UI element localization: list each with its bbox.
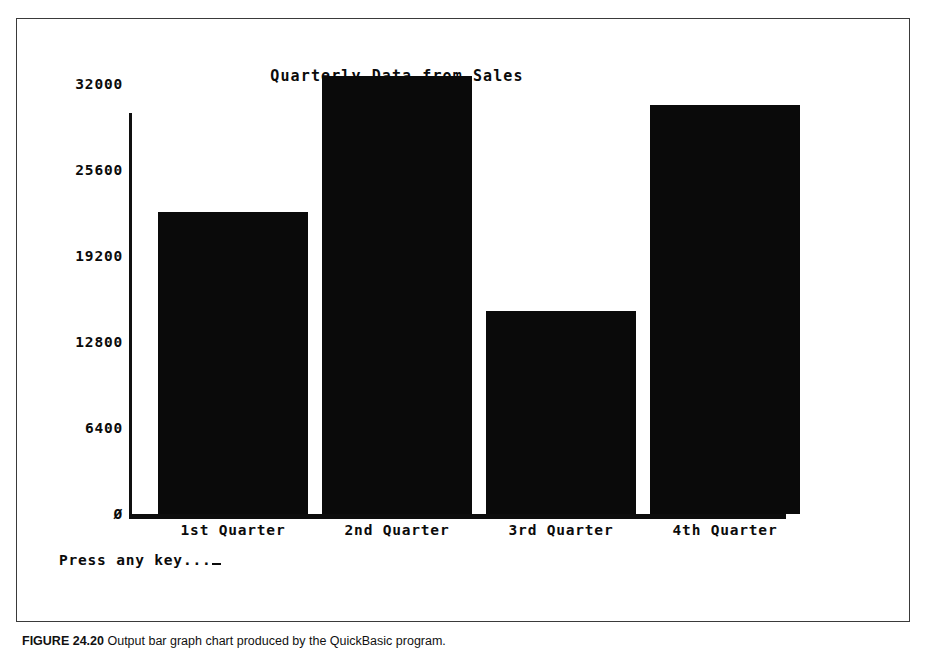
figure-caption-text: Output bar graph chart produced by the Q… — [107, 634, 445, 648]
bar — [650, 105, 800, 514]
bar — [486, 311, 636, 514]
figure-border: Quarterly Data from Sales 32000256001920… — [16, 18, 910, 622]
text-cursor — [212, 550, 221, 565]
bar — [158, 212, 308, 514]
figure-caption: FIGURE 24.20 Output bar graph chart prod… — [22, 634, 912, 648]
press-any-key-prompt: Press any key... — [59, 550, 221, 568]
prompt-text: Press any key... — [59, 552, 211, 568]
x-axis-tick-label: 1st Quarter — [158, 522, 308, 538]
x-axis-tick-label: 2nd Quarter — [322, 522, 472, 538]
dos-screen-capture: Quarterly Data from Sales 32000256001920… — [17, 19, 911, 623]
plot-area: 320002560019200128006400Ø 1st Quarter2nd… — [17, 19, 911, 623]
figure-caption-label: FIGURE 24.20 — [22, 634, 104, 648]
bar — [322, 76, 472, 514]
x-axis-tick-label: 3rd Quarter — [486, 522, 636, 538]
x-axis-tick-label: 4th Quarter — [650, 522, 800, 538]
bars-layer — [17, 19, 911, 514]
x-axis-line — [129, 514, 786, 519]
